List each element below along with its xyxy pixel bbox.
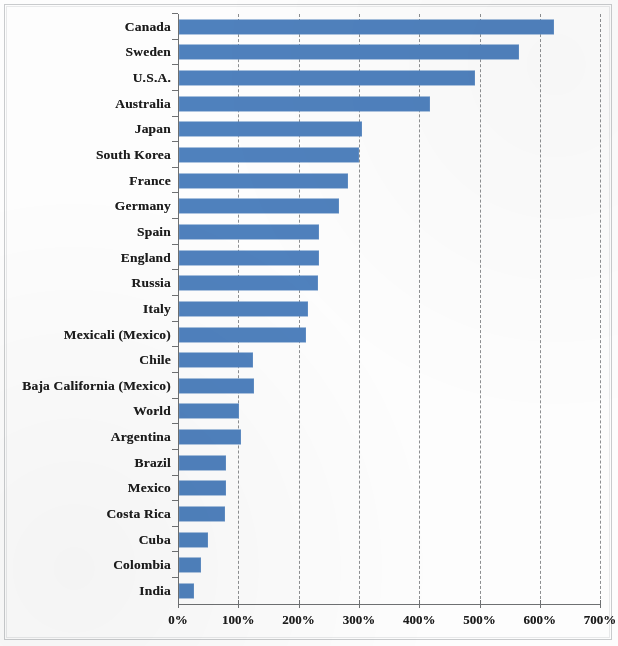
bar — [179, 353, 253, 368]
bar — [179, 301, 308, 316]
bar — [179, 224, 319, 239]
category-label: Colombia — [113, 557, 171, 573]
y-axis-tick — [172, 526, 178, 527]
y-axis-tick — [172, 218, 178, 219]
bar — [179, 250, 319, 265]
category-label: South Korea — [96, 147, 171, 163]
x-axis-tick-label: 600% — [524, 612, 557, 628]
bar-row: England — [0, 245, 618, 271]
bar — [179, 583, 194, 598]
category-label: Chile — [139, 352, 171, 368]
category-label: Mexico — [128, 480, 171, 496]
bar-row: Costa Rica — [0, 501, 618, 527]
y-axis-tick — [172, 423, 178, 424]
bar-row: Japan — [0, 117, 618, 143]
y-axis-tick — [172, 167, 178, 168]
y-axis-tick — [172, 64, 178, 65]
bar — [179, 45, 519, 60]
x-axis-tick-label: 300% — [343, 612, 376, 628]
bar — [179, 199, 339, 214]
bar-row: Germany — [0, 193, 618, 219]
category-label: Sweden — [126, 44, 171, 60]
x-axis-tick — [178, 600, 179, 608]
category-label: Australia — [115, 96, 171, 112]
category-label: Russia — [132, 275, 171, 291]
category-label: Italy — [143, 301, 171, 317]
category-label: Brazil — [135, 455, 171, 471]
category-label: Cuba — [139, 532, 171, 548]
bar — [179, 506, 225, 521]
bar — [179, 148, 359, 163]
bar-row: Canada — [0, 14, 618, 40]
x-axis-tick-label: 500% — [463, 612, 496, 628]
bar — [179, 481, 226, 496]
bar — [179, 276, 318, 291]
bar — [179, 455, 226, 470]
bar-row: Russia — [0, 270, 618, 296]
x-axis-tick-label: 400% — [403, 612, 436, 628]
bar — [179, 327, 306, 342]
category-label: England — [121, 250, 171, 266]
category-label: U.S.A. — [133, 70, 171, 86]
y-axis-tick — [172, 449, 178, 450]
bar-row: Baja California (Mexico) — [0, 373, 618, 399]
bar-row: Chile — [0, 347, 618, 373]
category-label: Baja California (Mexico) — [22, 378, 171, 394]
bar — [179, 558, 201, 573]
bar-row: Mexicali (Mexico) — [0, 322, 618, 348]
bar — [179, 71, 475, 86]
y-axis-tick — [172, 551, 178, 552]
y-axis-tick — [172, 372, 178, 373]
y-axis-tick — [172, 39, 178, 40]
bar — [179, 378, 254, 393]
bar-row: World — [0, 399, 618, 425]
bar-rows: CanadaSwedenU.S.A.AustraliaJapanSouth Ko… — [0, 14, 618, 604]
chart-page: CanadaSwedenU.S.A.AustraliaJapanSouth Ko… — [0, 0, 618, 646]
bar-row: Cuba — [0, 527, 618, 553]
y-axis-tick — [172, 475, 178, 476]
bar — [179, 173, 348, 188]
x-axis-tick — [419, 600, 420, 608]
bar-row: South Korea — [0, 142, 618, 168]
category-label: Costa Rica — [106, 506, 171, 522]
bar-row: France — [0, 168, 618, 194]
bar-row: Australia — [0, 91, 618, 117]
y-axis-tick — [172, 244, 178, 245]
y-axis-tick — [172, 398, 178, 399]
x-axis-tick-label: 200% — [282, 612, 315, 628]
bar-row: Argentina — [0, 424, 618, 450]
category-label: Mexicali (Mexico) — [64, 327, 171, 343]
bar-row: Brazil — [0, 450, 618, 476]
y-axis-tick — [172, 295, 178, 296]
bar — [179, 404, 239, 419]
category-label: Germany — [115, 198, 171, 214]
x-axis-tick-label: 700% — [584, 612, 617, 628]
y-axis-tick — [172, 116, 178, 117]
x-axis-tick — [600, 600, 601, 608]
bar-row: Italy — [0, 296, 618, 322]
bar-row: Sweden — [0, 40, 618, 66]
bar — [179, 122, 362, 137]
x-axis-tick-label: 0% — [168, 612, 188, 628]
x-axis-ticks: 0%100%200%300%400%500%600%700% — [178, 604, 601, 634]
category-label: India — [139, 583, 171, 599]
x-axis-tick-label: 100% — [222, 612, 255, 628]
category-label: Argentina — [111, 429, 171, 445]
y-axis-tick — [172, 192, 178, 193]
x-axis-tick — [299, 600, 300, 608]
y-axis-tick — [172, 321, 178, 322]
bar-row: Mexico — [0, 476, 618, 502]
bar — [179, 96, 430, 111]
y-axis-tick — [172, 90, 178, 91]
y-axis-tick — [172, 13, 178, 14]
bar — [179, 430, 241, 445]
x-axis-tick — [238, 600, 239, 608]
x-axis-tick — [359, 600, 360, 608]
bar-row: U.S.A. — [0, 65, 618, 91]
x-axis-tick — [480, 600, 481, 608]
bar-row: Colombia — [0, 552, 618, 578]
bar-row: India — [0, 578, 618, 604]
category-label: Canada — [125, 19, 171, 35]
category-label: World — [133, 403, 171, 419]
y-axis-tick — [172, 141, 178, 142]
